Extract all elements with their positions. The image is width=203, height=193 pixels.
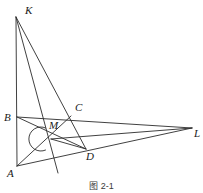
geometry-drawing (0, 0, 203, 193)
segment-B-L (17, 117, 192, 128)
line-group (16, 17, 192, 173)
vertex-label-A: A (7, 168, 14, 179)
segment-A-L (17, 128, 192, 166)
vertex-label-C: C (75, 102, 82, 113)
vertex-label-K: K (25, 5, 32, 16)
segment-K-A (16, 17, 17, 166)
segment-K-M-extended (16, 17, 58, 173)
vertex-label-B: B (4, 112, 11, 123)
vertex-label-M: M (49, 120, 58, 131)
vertex-label-L: L (194, 128, 200, 139)
figure-caption: 图 2-1 (0, 181, 203, 193)
geometry-figure: K B C M A D L 图 2-1 (0, 0, 203, 193)
segment-A-C (17, 116, 71, 166)
vertex-label-D: D (86, 151, 94, 162)
segment-M-L (51, 128, 192, 139)
